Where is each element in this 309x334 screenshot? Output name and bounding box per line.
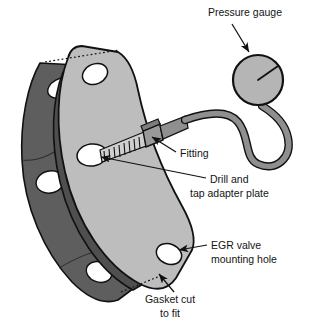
leader-pressure-gauge	[232, 24, 249, 52]
egr-adapter-plate-diagram: Pressure gauge Fitting Drill and tap ada…	[0, 0, 309, 334]
pressure-gauge-dial	[233, 55, 283, 105]
label-fitting: Fitting	[180, 147, 209, 159]
diagram-canvas: Pressure gauge Fitting Drill and tap ada…	[0, 0, 309, 334]
label-gasket-cut-line1: Gasket cut	[145, 293, 195, 305]
label-gasket-cut-line2: to fit	[160, 307, 180, 319]
label-egr-mounting-hole-line1: EGR valve	[211, 239, 261, 251]
label-drill-and-tap-line2: tap adapter plate	[190, 187, 269, 199]
label-drill-and-tap-line1: Drill and	[210, 173, 249, 185]
label-pressure-gauge: Pressure gauge	[208, 6, 282, 18]
label-egr-mounting-hole-line2: mounting hole	[211, 253, 277, 265]
